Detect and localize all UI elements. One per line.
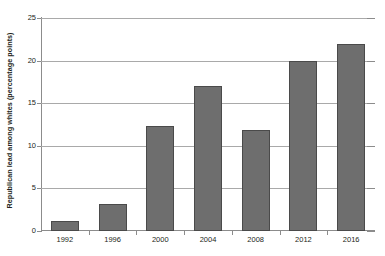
bar-1996 [99,204,127,231]
bar-1992 [51,221,79,231]
x-tick-mark-2 [184,231,185,235]
x-tick-mark-4 [280,231,281,235]
x-axis-tick-labels: 1992199620002004200820122016 [41,236,375,252]
bar-2012 [289,61,317,231]
y-tick-mark-0 [37,231,41,232]
x-tick-label-1992: 1992 [57,236,74,244]
y-tick-label-5: 5 [20,185,36,193]
y-tick-mark-right-0 [367,231,375,232]
x-tick-mark-5 [327,231,328,235]
x-tick-mark-0 [89,231,90,235]
bars [41,18,375,231]
bar-2004 [194,86,222,231]
y-axis-title-label: Republican lead among whites (percentage… [5,32,14,208]
y-axis-tick-labels: 0510152025 [20,0,36,256]
x-tick-label-2016: 2016 [343,236,360,244]
bar-2000 [146,126,174,231]
bar-2008 [242,130,270,231]
x-tick-label-2008: 2008 [247,236,264,244]
y-tick-label-0: 0 [20,227,36,235]
y-tick-label-10: 10 [20,142,36,150]
y-tick-label-20: 20 [20,57,36,65]
plot-area [41,18,375,231]
x-tick-label-2004: 2004 [200,236,217,244]
y-axis-title: Republican lead among whites (percentage… [0,0,18,240]
x-tick-mark-1 [136,231,137,235]
x-tick-mark-3 [232,231,233,235]
y-tick-label-25: 25 [20,14,36,22]
bar-2016 [337,44,365,231]
bar-chart: Republican lead among whites (percentage… [0,0,385,256]
x-tick-label-2000: 2000 [152,236,169,244]
x-tick-label-2012: 2012 [295,236,312,244]
y-tick-label-15: 15 [20,99,36,107]
x-tick-label-1996: 1996 [104,236,121,244]
